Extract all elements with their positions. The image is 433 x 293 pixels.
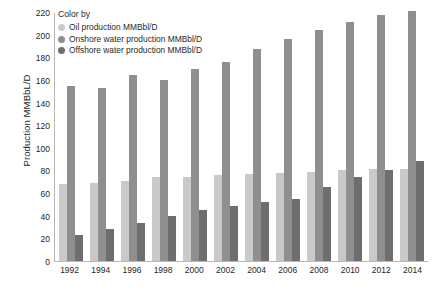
y-tick-label: 220 (24, 9, 50, 18)
x-tick-label: 2012 (366, 266, 397, 275)
y-tick-label: 20 (24, 235, 50, 244)
legend-item-2[interactable]: Offshore water production MMBbl/D (58, 45, 202, 56)
bar-onshore-2000[interactable] (191, 69, 199, 261)
legend-items: Oil production MMBbl/DOnshore water prod… (58, 22, 202, 56)
x-axis-ticks: 1992199419961998200020022004200620082010… (54, 266, 428, 275)
bar-group (366, 13, 397, 261)
x-tick-label: 2002 (210, 266, 241, 275)
y-tick-label: 200 (24, 31, 50, 40)
bar-group (210, 13, 241, 261)
bar-offshore-2002[interactable] (230, 206, 238, 261)
bar-oil-2000[interactable] (183, 177, 191, 261)
bar-onshore-1994[interactable] (98, 88, 106, 261)
legend: Color by Oil production MMBbl/DOnshore w… (58, 9, 202, 57)
bar-onshore-2006[interactable] (284, 39, 292, 261)
bar-onshore-2008[interactable] (315, 30, 323, 261)
x-tick-label: 2006 (272, 266, 303, 275)
bar-offshore-2008[interactable] (323, 187, 331, 261)
bar-onshore-1996[interactable] (129, 75, 137, 261)
bar-offshore-1998[interactable] (168, 216, 176, 261)
bar-onshore-2014[interactable] (408, 11, 416, 261)
bar-offshore-2010[interactable] (354, 177, 362, 261)
legend-swatch-icon (58, 24, 65, 31)
x-tick-label: 1996 (116, 266, 147, 275)
bar-onshore-2010[interactable] (346, 22, 354, 261)
legend-swatch-icon (58, 47, 65, 54)
bar-group (273, 13, 304, 261)
bar-oil-2008[interactable] (307, 172, 315, 261)
x-tick-label: 1992 (54, 266, 85, 275)
bar-group (335, 13, 366, 261)
y-tick-label: 140 (24, 99, 50, 108)
bar-oil-2010[interactable] (338, 170, 346, 261)
legend-title: Color by (58, 9, 202, 19)
bar-offshore-1996[interactable] (137, 223, 145, 261)
bar-offshore-2000[interactable] (199, 210, 207, 261)
legend-item-label: Onshore water production MMBbl/D (69, 34, 202, 45)
bar-onshore-1992[interactable] (67, 86, 75, 261)
y-tick-label: 80 (24, 167, 50, 176)
bar-onshore-2002[interactable] (222, 62, 230, 261)
y-tick-label: 40 (24, 212, 50, 221)
legend-swatch-icon (58, 36, 65, 43)
bar-onshore-2004[interactable] (253, 49, 261, 261)
bar-chart: Production MMBbL/D 020406080100120140160… (0, 0, 433, 293)
bar-oil-1992[interactable] (59, 184, 67, 261)
bar-offshore-2004[interactable] (261, 202, 269, 261)
bar-oil-2002[interactable] (214, 175, 222, 261)
bar-offshore-1994[interactable] (106, 229, 114, 261)
x-tick-label: 2010 (335, 266, 366, 275)
bar-onshore-2012[interactable] (377, 15, 385, 261)
x-tick-label: 2000 (179, 266, 210, 275)
y-tick-label: 0 (24, 258, 50, 267)
legend-item-1[interactable]: Onshore water production MMBbl/D (58, 34, 202, 45)
bar-offshore-2012[interactable] (385, 170, 393, 261)
bar-oil-1996[interactable] (121, 181, 129, 261)
bar-onshore-1998[interactable] (160, 80, 168, 261)
bar-oil-2004[interactable] (245, 174, 253, 261)
legend-item-label: Offshore water production MMBbl/D (69, 45, 202, 56)
y-axis-ticks: 020406080100120140160180200220 (24, 0, 50, 293)
y-tick-label: 100 (24, 145, 50, 154)
x-tick-label: 2004 (241, 266, 272, 275)
bar-oil-2012[interactable] (369, 169, 377, 261)
bar-group (397, 13, 428, 261)
bar-oil-2014[interactable] (400, 169, 408, 261)
legend-item-0[interactable]: Oil production MMBbl/D (58, 22, 202, 33)
x-tick-label: 2008 (303, 266, 334, 275)
y-tick-label: 160 (24, 77, 50, 86)
bar-oil-1994[interactable] (90, 183, 98, 261)
bar-group (241, 13, 272, 261)
legend-item-label: Oil production MMBbl/D (69, 22, 157, 33)
x-tick-label: 2014 (397, 266, 428, 275)
x-tick-label: 1998 (148, 266, 179, 275)
y-tick-label: 60 (24, 190, 50, 199)
bar-oil-1998[interactable] (152, 177, 160, 261)
bar-group (304, 13, 335, 261)
bar-offshore-1992[interactable] (75, 235, 83, 261)
bar-offshore-2006[interactable] (292, 199, 300, 261)
bar-oil-2006[interactable] (276, 173, 284, 261)
x-tick-label: 1994 (85, 266, 116, 275)
bar-offshore-2014[interactable] (416, 161, 424, 261)
y-tick-label: 120 (24, 122, 50, 131)
y-tick-label: 180 (24, 54, 50, 63)
